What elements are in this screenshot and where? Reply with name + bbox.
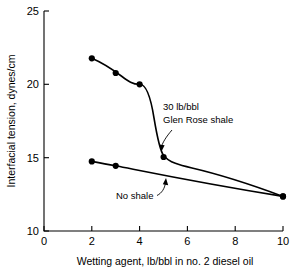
interfacial-tension-chart: 25 20 15 10 0 2 4 6 8 10 Wetting agent, … [0, 0, 293, 276]
shale-annotation-line1: 30 lb/bbl [163, 101, 199, 112]
x-tick-label-0: 0 [41, 235, 47, 247]
no-shale-point-3 [280, 193, 286, 199]
glen-rose-point-2 [113, 70, 119, 76]
glen-rose-point-4 [161, 154, 167, 160]
glen-rose-point-3 [137, 81, 143, 87]
x-tick-label-4: 4 [137, 235, 143, 247]
x-tick-label-2: 2 [89, 235, 95, 247]
shale-annotation-line2: Glen Rose shale [163, 114, 233, 125]
y-tick-label-10: 10 [27, 225, 39, 237]
x-tick-label-10: 10 [277, 235, 289, 247]
y-tick-label-20: 20 [27, 78, 39, 90]
no-shale-point-2 [113, 163, 119, 169]
glen-rose-point-1 [89, 55, 95, 61]
x-tick-label-8: 8 [232, 235, 238, 247]
x-tick-label-6: 6 [184, 235, 190, 247]
y-tick-label-15: 15 [27, 152, 39, 164]
x-axis-title: Wetting agent, lb/bbl in no. 2 diesel oi… [77, 255, 254, 267]
no-shale-point-1 [89, 158, 95, 164]
y-tick-label-25: 25 [27, 5, 39, 17]
y-axis-title: Interfacial tension, dynes/cm [5, 54, 17, 187]
no-shale-annotation-label: No shale [116, 190, 154, 201]
